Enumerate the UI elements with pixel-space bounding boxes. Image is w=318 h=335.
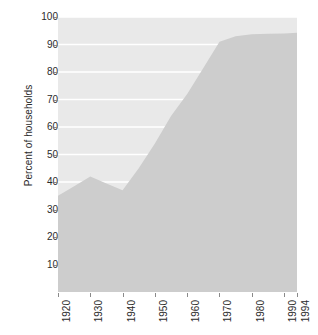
x-tick-label: 1940 xyxy=(127,300,137,322)
x-tick-mark xyxy=(252,293,253,297)
x-tick-mark xyxy=(219,293,220,297)
x-tick-mark xyxy=(58,293,59,297)
x-tick-label: 1950 xyxy=(159,300,169,322)
x-tick-mark xyxy=(284,293,285,297)
x-tick-label: 1920 xyxy=(62,300,72,322)
x-tick-label: 1994 xyxy=(301,300,311,322)
x-tick-label: 1930 xyxy=(94,300,104,322)
chart-figure: Percent of households 102030405060708090… xyxy=(0,0,318,335)
x-tick-mark xyxy=(90,293,91,297)
x-tick-label: 1980 xyxy=(256,300,266,322)
x-tick-mark xyxy=(187,293,188,297)
x-tick-mark xyxy=(123,293,124,297)
x-tick-label: 1990 xyxy=(288,300,298,322)
x-tick-mark xyxy=(155,293,156,297)
x-tick-mark xyxy=(297,293,298,297)
x-tick-label: 1970 xyxy=(223,300,233,322)
x-tick-label: 1960 xyxy=(191,300,201,322)
x-axis: 192019301940195019601970198019901994 xyxy=(0,0,318,335)
